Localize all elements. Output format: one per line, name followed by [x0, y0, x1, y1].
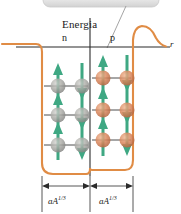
- page-title: Energia: [62, 19, 97, 30]
- neutron-width-label: aA1/3: [48, 195, 66, 206]
- proton-particles: [96, 71, 135, 148]
- proton-sphere: [96, 71, 111, 86]
- proton-width-label: aA1/3: [99, 195, 117, 206]
- arrowhead-mid-right: [90, 183, 97, 189]
- neutron-sphere: [51, 108, 66, 123]
- proton-width-exponent: 1/3: [109, 195, 117, 201]
- proton-width-base: aA: [99, 196, 109, 206]
- potential-well-diagram: [0, 0, 181, 214]
- neutron-width-base: aA: [48, 196, 58, 206]
- neutron-sphere: [75, 108, 90, 123]
- neutron-sphere: [75, 138, 90, 153]
- neutron-width-exponent: 1/3: [58, 195, 66, 201]
- callout-bar: [43, 0, 159, 7]
- dimension-annotations: [42, 176, 133, 212]
- arrowhead-right: [126, 183, 133, 189]
- arrowhead-left: [42, 183, 49, 189]
- neutron-sphere: [75, 79, 90, 94]
- neutron-sphere: [51, 79, 66, 94]
- neutron-particles: [51, 79, 90, 153]
- neutron-well-curve: [2, 44, 90, 174]
- proton-sphere: [120, 103, 135, 118]
- figure-canvas: Energia n p r aA1/3 aA1/3: [0, 0, 181, 214]
- proton-region-label: p: [110, 33, 115, 43]
- proton-sphere: [96, 133, 111, 148]
- arrowhead-mid-left: [83, 183, 90, 189]
- neutron-region-label: n: [62, 33, 67, 43]
- neutron-sphere: [51, 138, 66, 153]
- radius-axis-label: r: [170, 40, 174, 49]
- proton-sphere: [96, 103, 111, 118]
- proton-sphere: [120, 133, 135, 148]
- proton-sphere: [120, 71, 135, 86]
